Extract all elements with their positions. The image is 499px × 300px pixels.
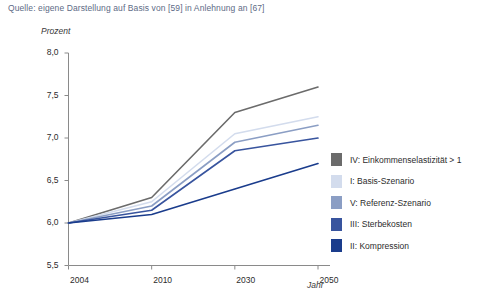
y-axis-ticks: [65, 53, 69, 266]
legend-item[interactable]: IV: Einkommenselastizität > 1: [331, 149, 496, 171]
x-tick-label: 2010: [141, 275, 185, 285]
data-series-group: [69, 87, 319, 223]
source-note: Quelle: eigene Darstellung auf Basis von…: [8, 3, 265, 13]
legend-swatch: [331, 153, 342, 166]
axes: [69, 53, 331, 266]
y-tick-label: 7,5: [33, 90, 59, 100]
legend-item[interactable]: I: Basis-Szenario: [331, 171, 496, 193]
legend-label: II: Kompression: [350, 241, 409, 251]
y-tick-label: 7,0: [33, 132, 59, 142]
legend-label: V: Referenz-Szenario: [350, 198, 431, 208]
legend-swatch: [331, 196, 342, 209]
legend: IV: Einkommenselastizität > 1I: Basis-Sz…: [331, 149, 496, 257]
y-tick-label: 6,5: [33, 175, 59, 185]
legend-item[interactable]: II: Kompression: [331, 235, 496, 257]
legend-label: IV: Einkommenselastizität > 1: [350, 155, 461, 165]
chart-area: Prozent Jahr 5,56,06,57,07,58,0 20042010…: [0, 22, 499, 300]
x-tick-label: 2030: [224, 275, 268, 285]
legend-label: III: Sterbekosten: [350, 219, 412, 229]
legend-item[interactable]: III: Sterbekosten: [331, 214, 496, 236]
legend-swatch: [331, 239, 342, 252]
x-tick-label: 2050: [307, 275, 351, 285]
y-tick-label: 5,5: [33, 260, 59, 270]
series-line: [69, 87, 319, 223]
legend-item[interactable]: V: Referenz-Szenario: [331, 192, 496, 214]
x-axis-ticks: [69, 266, 319, 270]
legend-label: I: Basis-Szenario: [350, 176, 414, 186]
x-tick-label: 2004: [58, 275, 102, 285]
legend-swatch: [331, 218, 342, 231]
series-line: [69, 138, 319, 223]
legend-swatch: [331, 175, 342, 188]
series-line: [69, 125, 319, 223]
y-tick-label: 8,0: [33, 47, 59, 57]
y-tick-label: 6,0: [33, 217, 59, 227]
